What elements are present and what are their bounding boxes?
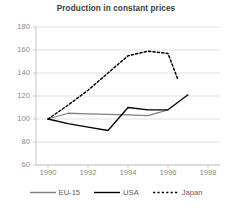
legend-swatch-solid-line — [94, 189, 120, 196]
y-tick-label: 100 — [6, 114, 30, 123]
series-line-eu-15 — [48, 110, 168, 119]
y-tick-label: 60 — [6, 160, 30, 169]
axis-lines — [33, 27, 220, 168]
y-tick-label: 160 — [6, 45, 30, 54]
legend-swatch-solid-line — [30, 189, 56, 196]
x-tick-label: 1998 — [193, 168, 223, 177]
gridlines — [36, 27, 220, 165]
legend-item-japan[interactable]: Japan — [153, 188, 203, 197]
legend-swatch-dashed-line — [153, 189, 179, 196]
legend-item-eu-15[interactable]: EU-15 — [30, 188, 81, 197]
chart-container: Production in constant prices 6080100120… — [0, 0, 232, 211]
y-tick-label: 80 — [6, 137, 30, 146]
legend-label: EU-15 — [59, 188, 81, 197]
x-tick-label: 1992 — [73, 168, 103, 177]
y-tick-label: 140 — [6, 68, 30, 77]
y-tick-label: 120 — [6, 91, 30, 100]
legend-item-usa[interactable]: USA — [94, 188, 139, 197]
y-tick-label: 180 — [6, 22, 30, 31]
x-tick-label: 1996 — [153, 168, 183, 177]
x-tick-label: 1994 — [113, 168, 143, 177]
legend-label: Japan — [182, 188, 203, 197]
legend-label: USA — [123, 188, 139, 197]
x-tick-label: 1990 — [33, 168, 63, 177]
series-line-japan — [48, 51, 178, 119]
chart-legend: EU-15USAJapan — [0, 188, 232, 197]
plot-area — [0, 0, 232, 211]
